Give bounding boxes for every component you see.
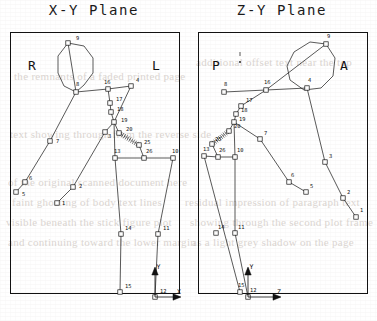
figure-segment (76, 89, 108, 92)
figure-node[interactable]: 17 (108, 96, 123, 105)
node-marker[interactable] (210, 142, 214, 146)
node-marker[interactable] (71, 185, 75, 189)
figure-node[interactable]: 4 (129, 77, 139, 88)
axis-horizontal-label: X (177, 288, 181, 296)
node-marker[interactable] (23, 180, 27, 184)
node-label: 9 (76, 35, 79, 41)
figure-node[interactable]: 2 (71, 183, 82, 189)
figure-node[interactable]: 9 (324, 33, 330, 46)
node-marker[interactable] (222, 90, 226, 94)
node-label: 17 (116, 96, 123, 102)
node-marker[interactable] (117, 131, 121, 135)
figure-segment (120, 234, 121, 292)
ladder-rung (134, 141, 136, 145)
ladder-rung (125, 135, 127, 139)
node-marker[interactable] (233, 155, 237, 159)
node-marker[interactable] (129, 84, 133, 88)
node-marker[interactable] (142, 156, 146, 160)
stray-dot-mark (239, 61, 241, 63)
node-marker[interactable] (109, 110, 113, 114)
node-label: 20 (234, 123, 241, 129)
node-marker[interactable] (258, 137, 262, 141)
figure-node[interactable]: 7 (258, 130, 267, 141)
node-label: 13 (114, 148, 121, 154)
node-marker[interactable] (214, 231, 218, 235)
figure-segment (241, 90, 266, 106)
node-label: 14 (218, 224, 225, 230)
node-label: 7 (56, 138, 59, 144)
node-marker[interactable] (137, 143, 141, 147)
node-marker[interactable] (341, 196, 345, 200)
node-label: 1 (360, 207, 363, 213)
node-marker[interactable] (14, 190, 18, 194)
figure-segment (224, 90, 266, 92)
node-marker[interactable] (233, 231, 237, 235)
figure-node[interactable]: 25 (137, 139, 151, 147)
figure-node[interactable]: 26 (216, 147, 226, 159)
figure-node[interactable]: 11 (156, 225, 170, 236)
figure-node[interactable]: 14 (214, 224, 225, 235)
figure-node[interactable]: 18 (234, 107, 248, 116)
figure-node[interactable]: 1 (55, 200, 65, 206)
figure-node[interactable]: 10 (233, 147, 244, 159)
node-marker[interactable] (234, 112, 238, 116)
node-marker[interactable] (287, 180, 291, 184)
node-label: 2 (347, 189, 350, 195)
ladder-rung (123, 134, 125, 138)
panel-xy-stick-figure: 12567891641718192032513261014111512YX (0, 0, 188, 321)
figure-node[interactable]: 6 (23, 175, 32, 184)
node-marker[interactable] (108, 101, 112, 105)
figure-node[interactable]: 20 (117, 126, 133, 135)
node-label: 5 (310, 183, 313, 189)
figure-node[interactable]: 18 (109, 106, 124, 114)
figure-segment (266, 88, 307, 90)
figure-node[interactable]: 20 (227, 123, 241, 133)
node-label: 19 (121, 117, 128, 123)
node-marker[interactable] (113, 156, 117, 160)
node-marker[interactable] (216, 155, 220, 159)
node-marker[interactable] (305, 86, 309, 90)
figure-node[interactable]: 5 (304, 183, 313, 194)
ladder-rung (223, 133, 226, 137)
node-marker[interactable] (238, 290, 242, 294)
figure-node[interactable]: 2 (341, 189, 350, 200)
node-label: 26 (146, 148, 153, 154)
node-marker[interactable] (55, 201, 59, 205)
figure-node[interactable]: 16 (264, 79, 271, 92)
node-marker[interactable] (156, 232, 160, 236)
figure-node[interactable]: 25 (210, 136, 222, 146)
node-label: 17 (246, 97, 253, 103)
figure-node[interactable]: 7 (48, 138, 59, 144)
figure-node[interactable]: 10 (171, 148, 179, 160)
figure-node[interactable]: 26 (142, 148, 153, 160)
node-marker[interactable] (112, 120, 116, 124)
figure-node[interactable]: 1 (354, 207, 363, 219)
node-marker[interactable] (119, 232, 123, 236)
figure-node[interactable]: 11 (233, 224, 245, 235)
figure-node[interactable]: 3 (103, 130, 111, 139)
node-marker[interactable] (106, 87, 110, 91)
panel-xy-plane: X-Y Plane R L 12567891641718192032513261… (0, 0, 188, 321)
node-marker[interactable] (66, 41, 70, 45)
node-marker[interactable] (324, 42, 328, 46)
node-label: 20 (126, 126, 133, 132)
figure-node[interactable]: 4 (305, 77, 311, 90)
node-marker[interactable] (264, 88, 268, 92)
node-marker[interactable] (74, 90, 78, 94)
node-marker[interactable] (227, 129, 231, 133)
node-marker[interactable] (202, 154, 206, 158)
node-marker[interactable] (118, 290, 122, 294)
node-marker[interactable] (304, 190, 308, 194)
node-marker[interactable] (103, 130, 107, 134)
figure-node[interactable]: 6 (287, 172, 294, 184)
figure-node[interactable]: 8 (222, 81, 227, 94)
figure-node[interactable]: 13 (113, 148, 121, 160)
ladder-rung (127, 136, 129, 140)
node-marker[interactable] (323, 160, 327, 164)
figure-node[interactable]: 5 (14, 190, 25, 197)
node-label: 4 (308, 77, 311, 83)
node-marker[interactable] (171, 156, 175, 160)
figure-node[interactable]: 19 (112, 117, 128, 124)
node-marker[interactable] (354, 215, 358, 219)
node-marker[interactable] (48, 139, 52, 143)
